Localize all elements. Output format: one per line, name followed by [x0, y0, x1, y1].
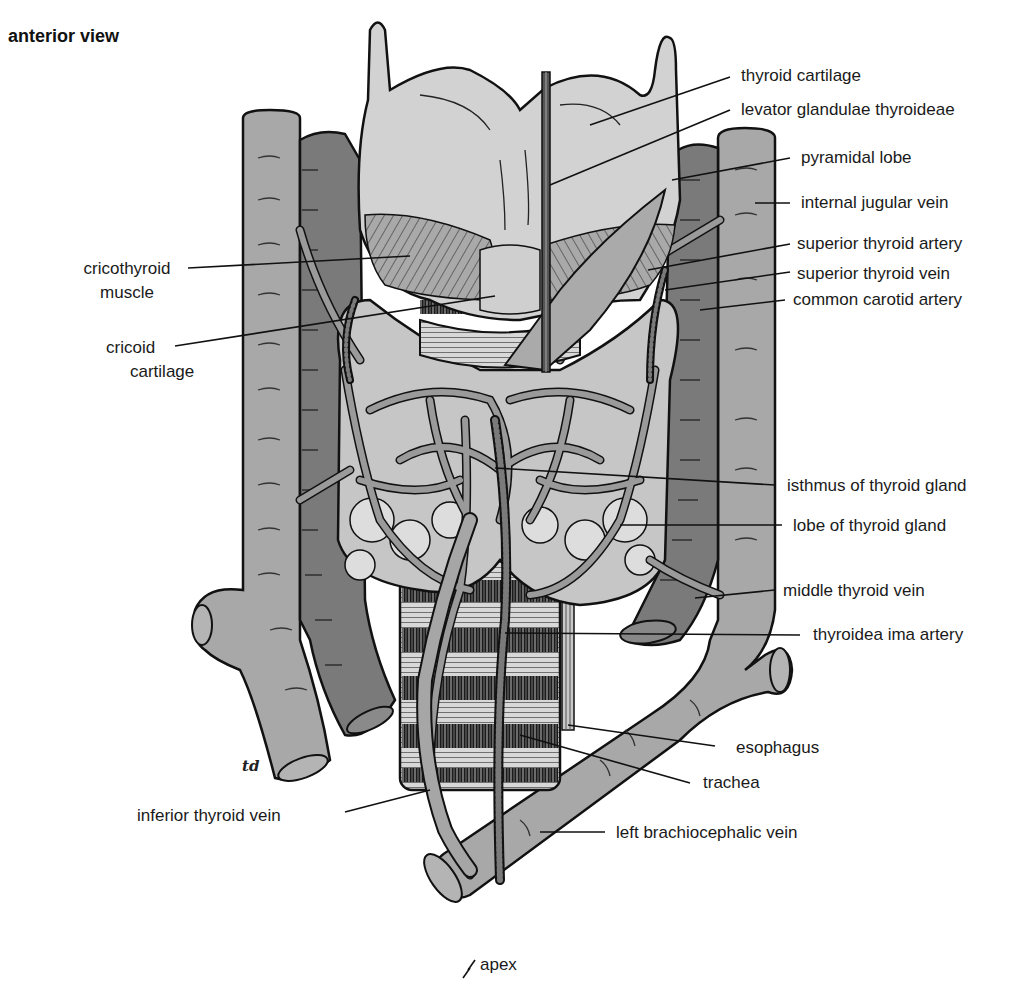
label-cricoid-cartilage: cricoid cartilage — [106, 338, 194, 382]
thyroid-anatomy-figure: anterior view — [0, 0, 1012, 997]
label-cricothyroid-muscle: cricothyroid muscle — [72, 259, 182, 303]
levator-glandulae-thyroideae — [542, 72, 550, 372]
label-cricoid-cartilage-line1: cricoid — [106, 338, 194, 358]
label-common-carotid-artery: common carotid artery — [793, 290, 962, 310]
label-esophagus: esophagus — [736, 738, 819, 758]
label-thyroidea-ima-artery: thyroidea ima artery — [813, 625, 963, 645]
label-inferior-thyroid-vein: inferior thyroid vein — [137, 806, 281, 826]
label-internal-jugular-vein: internal jugular vein — [801, 193, 948, 213]
label-trachea: trachea — [703, 773, 760, 793]
label-pyramidal-lobe: pyramidal lobe — [801, 148, 912, 168]
label-cricothyroid-muscle-line1: cricothyroid — [72, 259, 182, 279]
label-cricoid-cartilage-line2: cartilage — [130, 362, 194, 382]
esophagus — [562, 600, 574, 730]
label-middle-thyroid-vein: middle thyroid vein — [783, 581, 925, 601]
label-isthmus-of-thyroid-gland: isthmus of thyroid gland — [787, 476, 967, 496]
label-thyroid-cartilage: thyroid cartilage — [741, 66, 861, 86]
label-left-brachiocephalic-vein: left brachiocephalic vein — [616, 823, 797, 843]
label-apex: apex — [480, 955, 517, 975]
artist-signature: td — [242, 757, 259, 775]
label-superior-thyroid-artery: superior thyroid artery — [797, 234, 962, 254]
label-superior-thyroid-vein: superior thyroid vein — [797, 264, 950, 284]
label-lobe-of-thyroid-gland: lobe of thyroid gland — [793, 516, 946, 536]
label-levator-glandulae-thyroideae: levator glandulae thyroideae — [741, 100, 955, 120]
label-cricothyroid-muscle-line2: muscle — [72, 283, 182, 303]
